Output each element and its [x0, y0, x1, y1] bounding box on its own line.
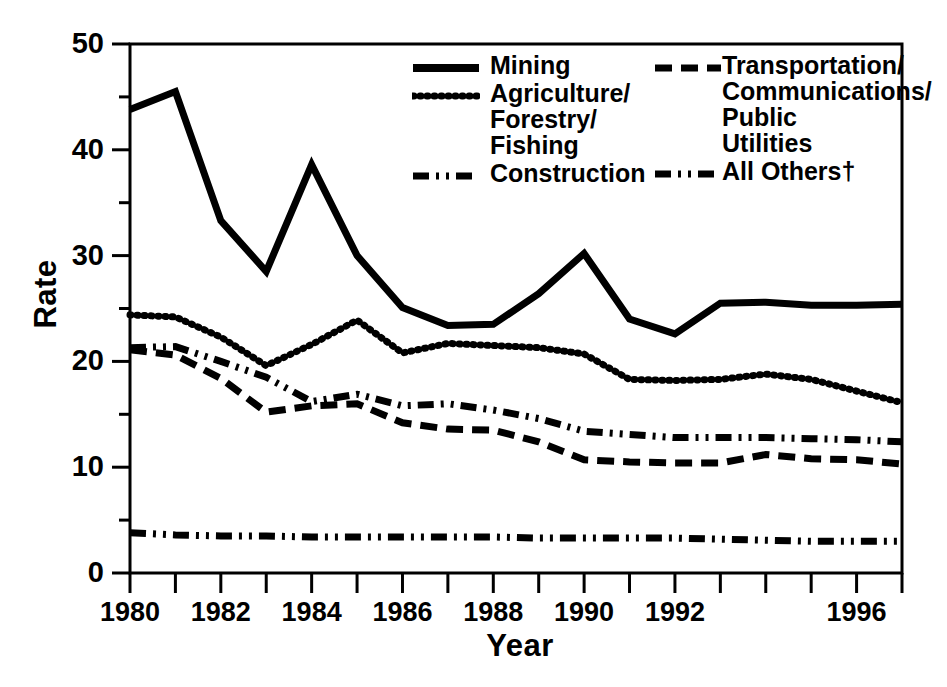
series-line [130, 533, 902, 541]
legend-label: Agriculture/ Forestry/ Fishing [490, 80, 648, 158]
series-line [130, 350, 902, 464]
legend-entry: Agriculture/ Forestry/ Fishing [412, 80, 648, 158]
chart-figure: Rate Year 01020304050 198019821984198619… [0, 0, 947, 687]
y-tick-label: 0 [34, 558, 104, 587]
dash-dot-dot-line-swatch [654, 169, 718, 177]
solid-line-swatch [412, 63, 480, 71]
legend-entry: Construction [412, 160, 648, 186]
legend-column-right: Transportation/ Communications/ Public U… [654, 52, 892, 186]
legend-entry: Mining [412, 52, 648, 78]
dotted-x-line-swatch [412, 91, 480, 99]
legend-entry: Transportation/ Communications/ Public U… [654, 52, 892, 156]
y-tick-label: 10 [34, 452, 104, 481]
series-line [130, 347, 902, 442]
x-tick-label: 1996 [797, 599, 917, 626]
legend-entry: All Others† [654, 158, 892, 184]
y-tick-label: 50 [34, 29, 104, 58]
legend-label: All Others† [722, 158, 892, 184]
legend-label: Construction [490, 160, 648, 186]
dash-dot-dot-line-swatch [412, 171, 480, 179]
legend-label: Transportation/ Communications/ Public U… [722, 52, 892, 156]
chart-legend: MiningAgriculture/ Forestry/ FishingCons… [412, 52, 892, 182]
x-tick-label: 1992 [615, 599, 735, 626]
legend-label: Mining [490, 52, 648, 78]
y-axis-minor-ticks [119, 97, 130, 520]
y-tick-label: 20 [34, 346, 104, 375]
dashed-line-swatch [654, 63, 718, 71]
series-line [130, 315, 902, 403]
legend-column-left: MiningAgriculture/ Forestry/ FishingCons… [412, 52, 648, 188]
y-tick-label: 40 [34, 135, 104, 164]
y-tick-label: 30 [34, 241, 104, 270]
x-axis-ticks [130, 573, 902, 593]
